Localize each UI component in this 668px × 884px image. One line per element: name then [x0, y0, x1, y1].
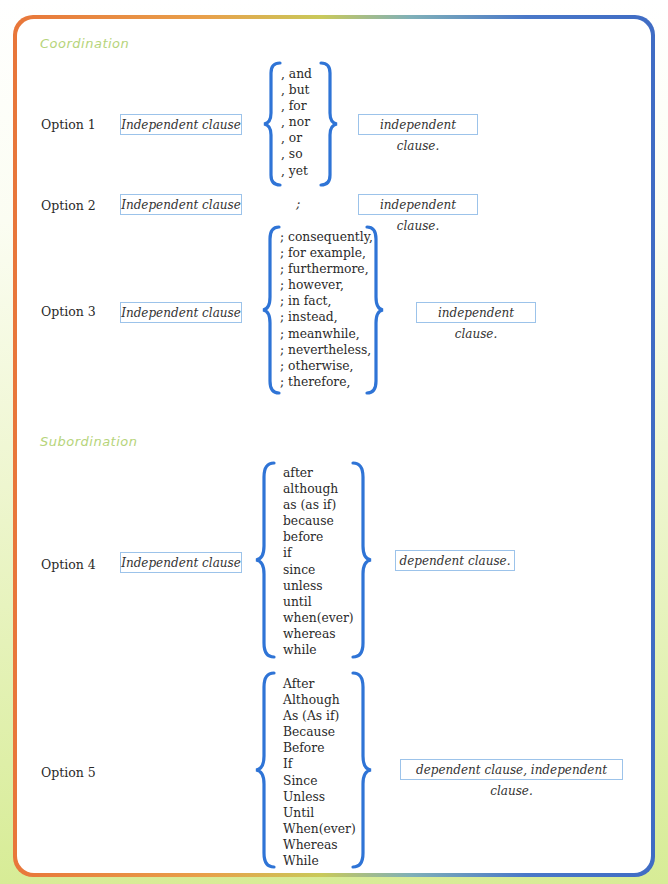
connector-item: , or: [281, 130, 312, 146]
right-brace-icon: [318, 61, 340, 187]
connector-item: As (As if): [283, 708, 356, 724]
connector-item: After: [283, 676, 356, 692]
option-1-left-clause: Independent clause: [120, 114, 242, 135]
connector-item: Since: [283, 773, 356, 789]
connector-item: When(ever): [283, 821, 356, 837]
connector-item: while: [283, 642, 354, 658]
option-5-connector-list: After Although As (As if) Because Before…: [283, 676, 356, 869]
left-brace-icon: [260, 225, 282, 395]
connector-item: if: [283, 545, 354, 561]
connector-item: after: [283, 465, 354, 481]
connector-item: unless: [283, 578, 354, 594]
left-brace-icon: [253, 461, 277, 659]
connector-item: ; instead,: [280, 309, 373, 325]
connector-item: ; however,: [280, 277, 373, 293]
left-brace-icon: [261, 61, 283, 187]
connector-item: since: [283, 562, 354, 578]
right-brace-icon: [350, 461, 374, 659]
option-4-left-clause: Independent clause: [120, 552, 242, 573]
connector-item: , but: [281, 82, 312, 98]
connector-item: ; in fact,: [280, 293, 373, 309]
connector-item: because: [283, 513, 354, 529]
option-3-connector-list: ; consequently, ; for example, ; further…: [280, 229, 373, 390]
option-3-right-clause: independent clause.: [416, 302, 536, 323]
option-2-right-clause: independent clause.: [358, 194, 478, 215]
left-brace-icon: [253, 671, 277, 869]
connector-item: , yet: [281, 163, 312, 179]
connector-item: , for: [281, 98, 312, 114]
connector-item: Unless: [283, 789, 356, 805]
connector-item: ; consequently,: [280, 229, 373, 245]
option-4-label: Option 4: [41, 557, 96, 572]
connector-item: ; meanwhile,: [280, 326, 373, 342]
connector-item: ; otherwise,: [280, 358, 373, 374]
section-title-subordination: Subordination: [40, 434, 138, 449]
right-brace-icon: [350, 671, 374, 869]
right-brace-icon: [364, 225, 386, 395]
connector-item: when(ever): [283, 610, 354, 626]
connector-item: , nor: [281, 114, 312, 130]
connector-item: Whereas: [283, 837, 356, 853]
option-1-connector-list: , and , but , for , nor , or , so , yet: [281, 66, 312, 179]
connector-item: , so: [281, 146, 312, 162]
option-4-right-clause: dependent clause.: [395, 550, 515, 571]
option-5-right-clause: dependent clause, independent clause.: [400, 759, 623, 780]
connector-item: Although: [283, 692, 356, 708]
option-4-connector-list: after although as (as if) because before…: [283, 465, 354, 658]
connector-item: Before: [283, 740, 356, 756]
connector-item: although: [283, 481, 354, 497]
connector-item: as (as if): [283, 497, 354, 513]
option-2-semicolon: ;: [296, 196, 300, 211]
section-title-coordination: Coordination: [40, 36, 129, 51]
connector-item: before: [283, 529, 354, 545]
connector-item: ; nevertheless,: [280, 342, 373, 358]
option-3-left-clause: Independent clause: [120, 302, 242, 323]
connector-item: Because: [283, 724, 356, 740]
connector-item: , and: [281, 66, 312, 82]
option-2-label: Option 2: [41, 198, 96, 213]
option-5-label: Option 5: [41, 765, 96, 780]
connector-item: ; furthermore,: [280, 261, 373, 277]
connector-item: ; therefore,: [280, 374, 373, 390]
connector-item: If: [283, 756, 356, 772]
option-1-right-clause: independent clause.: [358, 114, 478, 135]
connector-item: whereas: [283, 626, 354, 642]
connector-item: ; for example,: [280, 245, 373, 261]
option-1-label: Option 1: [41, 117, 96, 132]
option-3-label: Option 3: [41, 304, 96, 319]
option-2-left-clause: Independent clause: [120, 194, 242, 215]
connector-item: Until: [283, 805, 356, 821]
connector-item: until: [283, 594, 354, 610]
connector-item: While: [283, 853, 356, 869]
